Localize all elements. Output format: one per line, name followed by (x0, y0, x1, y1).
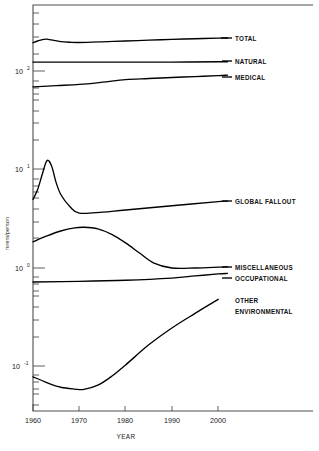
series-label-natural: NATURAL (235, 58, 267, 65)
y-axis-ticks (33, 13, 45, 405)
series-label-medical: MEDICAL (235, 74, 265, 81)
x-tick-label: 2000 (210, 416, 226, 425)
y-axis-title: mrem/person (4, 217, 10, 250)
series-line-miscellaneous (33, 227, 227, 268)
y-tick-exponent: -1 (24, 360, 29, 366)
y-tick-label: 10 (15, 165, 23, 174)
x-axis-ticks (33, 404, 218, 411)
series-layer (33, 38, 227, 390)
y-tick-exponent: 0 (27, 262, 30, 268)
radiation-dose-log-chart: 10 2 10 1 10 0 10 -1 mrem/person 1960 19… (0, 0, 319, 451)
label-leader-lines (221, 38, 232, 278)
series-labels: TOTAL NATURAL MEDICAL GLOBAL FALLOUT MIS… (235, 35, 296, 315)
y-tick-exponent: 2 (27, 65, 30, 71)
y-tick-label: 10 (15, 67, 23, 76)
series-label-total: TOTAL (235, 35, 257, 42)
x-tick-label: 1970 (71, 416, 87, 425)
series-line-other-environmental (33, 299, 218, 389)
plot-frame (33, 5, 313, 411)
series-label-global-fallout: GLOBAL FALLOUT (235, 198, 296, 205)
y-tick-label: 10 (15, 264, 23, 273)
y-tick-label: 10 (12, 362, 20, 371)
series-label-other-environmental-line2: ENVIRONMENTAL (235, 308, 293, 315)
x-tick-labels: 1960 1970 1980 1990 2000 (25, 416, 226, 425)
y-tick-exponent: 1 (27, 163, 30, 169)
series-label-other-environmental-line1: OTHER (235, 297, 258, 304)
series-label-miscellaneous: MISCELLANEOUS (235, 264, 293, 271)
series-line-occupational (33, 273, 227, 282)
series-label-occupational: OCCUPATIONAL (235, 275, 288, 282)
y-tick-labels: 10 2 10 1 10 0 10 -1 (12, 65, 30, 371)
x-tick-label: 1980 (117, 416, 133, 425)
series-line-medical (33, 75, 227, 87)
x-tick-label: 1960 (25, 416, 41, 425)
x-axis-title: YEAR (116, 433, 135, 440)
series-line-total (33, 38, 227, 43)
x-tick-label: 1990 (164, 416, 180, 425)
series-line-global-fallout (33, 160, 227, 213)
plot-area: 10 2 10 1 10 0 10 -1 mrem/person 1960 19… (0, 0, 319, 451)
